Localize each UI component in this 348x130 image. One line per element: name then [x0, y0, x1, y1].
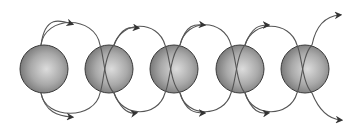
sphere-3	[150, 45, 198, 93]
sphere-1	[20, 45, 68, 93]
spheres	[20, 45, 329, 93]
sphere-5	[281, 45, 329, 93]
sphere-4	[216, 45, 264, 93]
sphere-chain-diagram	[0, 0, 348, 130]
